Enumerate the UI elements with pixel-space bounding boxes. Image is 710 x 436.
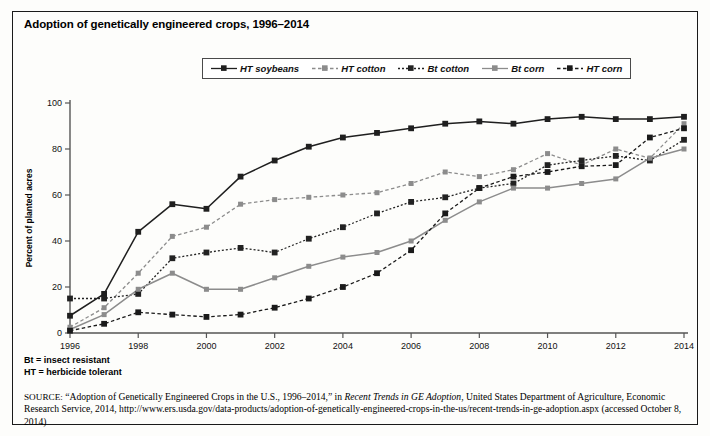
data-point-marker [613, 162, 619, 168]
data-point-marker [579, 163, 585, 169]
y-axis-title: Percent of planted acres [24, 168, 34, 267]
series-line [70, 124, 684, 328]
data-point-marker [477, 174, 482, 179]
data-point-marker [204, 287, 209, 292]
x-tick-label: 2008 [469, 341, 489, 351]
data-point-marker [306, 264, 311, 269]
data-point-marker [443, 170, 448, 175]
data-point-marker [169, 312, 175, 318]
data-point-marker [340, 255, 345, 260]
data-point-marker [170, 271, 175, 276]
source-label: SOURCE: [24, 392, 63, 402]
data-point-marker [442, 121, 448, 127]
y-tick-label: 40 [52, 236, 62, 246]
data-point-marker [545, 186, 550, 191]
y-tick-label: 0 [57, 328, 62, 338]
data-point-marker [613, 116, 619, 122]
page-title: Adoption of genetically engineered crops… [24, 18, 309, 30]
data-point-marker [306, 236, 312, 242]
source-citation: SOURCE: “Adoption of Genetically Enginee… [24, 391, 686, 428]
data-point-marker [545, 169, 551, 175]
data-point-marker [579, 114, 585, 120]
data-point-marker [545, 151, 550, 156]
data-point-marker [545, 116, 551, 122]
data-point-marker [340, 224, 346, 230]
data-point-marker [135, 229, 141, 235]
data-point-marker [272, 158, 278, 164]
series-line [70, 128, 684, 330]
footnote-ht: HT = herbicide tolerant [24, 367, 122, 379]
data-point-marker [169, 255, 175, 261]
data-point-marker [408, 125, 414, 131]
data-point-marker [238, 202, 243, 207]
footnote-block: Bt = insect resistant HT = herbicide tol… [24, 355, 122, 378]
data-point-marker [67, 328, 73, 334]
data-point-marker [409, 239, 414, 244]
data-point-marker [101, 321, 107, 327]
series-line [70, 149, 684, 330]
data-point-marker [442, 211, 448, 217]
data-point-marker [67, 296, 73, 302]
data-point-marker [613, 176, 618, 181]
data-point-marker [476, 119, 482, 125]
data-point-marker [511, 121, 517, 127]
data-point-marker [511, 167, 516, 172]
x-tick-label: 2002 [265, 341, 285, 351]
data-point-marker [647, 116, 653, 122]
data-point-marker [442, 194, 448, 200]
x-tick-label: 1998 [128, 341, 148, 351]
data-point-marker [306, 144, 312, 150]
data-point-marker [579, 158, 585, 164]
data-point-marker [647, 135, 653, 141]
data-point-marker [681, 137, 687, 143]
data-point-marker [238, 287, 243, 292]
data-point-marker [272, 305, 278, 311]
y-tick-label: 80 [52, 144, 62, 154]
data-point-marker [375, 190, 380, 195]
data-point-marker [204, 225, 209, 230]
data-point-marker [511, 174, 517, 180]
x-tick-label: 2012 [606, 341, 626, 351]
data-point-marker [374, 270, 380, 276]
data-point-marker [408, 199, 414, 205]
data-point-marker [340, 284, 346, 290]
data-point-marker [272, 250, 278, 256]
y-tick-label: 100 [47, 98, 62, 108]
data-point-marker [306, 296, 312, 302]
x-tick-label: 1996 [60, 341, 80, 351]
data-point-marker [306, 195, 311, 200]
data-point-marker [238, 174, 244, 180]
figure-page: Adoption of genetically engineered crops… [0, 0, 710, 436]
source-text-before: “Adoption of Genetically Engineered Crop… [63, 391, 345, 402]
data-point-marker [102, 305, 107, 310]
data-point-marker [375, 250, 380, 255]
data-point-marker [340, 135, 346, 141]
data-point-marker [681, 125, 687, 131]
data-point-marker [102, 312, 107, 317]
data-point-marker [477, 199, 482, 204]
data-point-marker [136, 271, 141, 276]
data-point-marker [511, 181, 517, 187]
data-point-marker [169, 201, 175, 207]
data-point-marker [681, 114, 687, 120]
x-tick-label: 2014 [674, 341, 694, 351]
source-italic-title: Recent Trends in GE Adoption [344, 391, 461, 402]
data-point-marker [409, 181, 414, 186]
data-point-marker [613, 153, 619, 159]
data-point-marker [511, 186, 516, 191]
data-point-marker [374, 211, 380, 217]
data-point-marker [204, 314, 210, 320]
x-tick-label: 2010 [538, 341, 558, 351]
data-point-marker [67, 313, 73, 319]
data-point-marker [272, 197, 277, 202]
x-tick-label: 2004 [333, 341, 353, 351]
data-point-marker [613, 147, 618, 152]
data-point-marker [340, 193, 345, 198]
data-point-marker [135, 291, 141, 297]
data-point-marker [101, 296, 107, 302]
data-point-marker [204, 206, 210, 212]
chart-plot-area: HT soybeansHT cottonBt cottonBt cornHT c… [12, 42, 698, 352]
data-point-marker [476, 185, 482, 191]
data-point-marker [238, 312, 244, 318]
data-point-marker [272, 275, 277, 280]
